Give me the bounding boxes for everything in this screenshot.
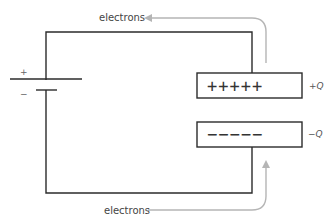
bottom-plate-charge-label: −Q [308,129,323,139]
top-plate-charge-label: +Q [309,81,324,91]
battery-positive-sign: + [20,67,28,77]
bottom-electrons-label: electrons [104,205,150,216]
circuit-diagram: + − +++++ +Q −−−−− −Q electrons electron… [0,0,334,224]
bottom-electron-flow-arrow [148,162,266,210]
top-electrons-label: electrons [99,12,145,23]
top-electron-flow-arrow [146,18,266,63]
top-plate-charges: +++++ [207,76,263,96]
battery-negative-sign: − [20,89,28,99]
bottom-plate-charges: −−−−− [207,124,263,144]
